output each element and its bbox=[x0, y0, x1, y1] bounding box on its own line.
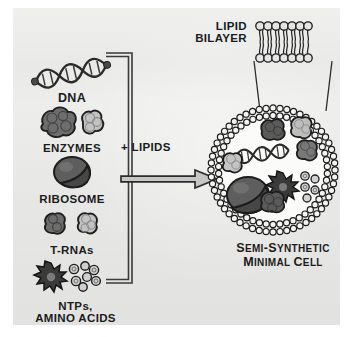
label-lipid-bilayer: LIPID BILAYER bbox=[185, 20, 247, 45]
label-ntps-line2: AMINO ACIDS bbox=[35, 312, 116, 324]
caption-line1: SEMI-SYNTHETIC bbox=[236, 241, 330, 255]
phospholipid-bilayer-inset bbox=[254, 20, 316, 64]
figure-panel: DNA ENZYMES RIBOSOME bbox=[13, 8, 340, 325]
label-ntps-amino-acids: NTPs, AMINO ACIDS bbox=[13, 300, 138, 325]
label-lipid-bilayer-line2: BILAYER bbox=[195, 32, 247, 44]
protein-blob-pair-icon bbox=[39, 107, 107, 139]
caption-semi-synthetic-minimal-cell: SEMI-SYNTHETIC MINIMAL CELL bbox=[218, 242, 340, 269]
ribosome-subunits-icon bbox=[51, 156, 97, 192]
ntp-star-cluster-icon bbox=[31, 260, 107, 294]
label-ntps-line1: NTPs, bbox=[58, 300, 92, 312]
trna-blob-pair-icon bbox=[41, 210, 105, 240]
dna-double-helix-icon bbox=[29, 56, 115, 90]
semi-synthetic-minimal-cell bbox=[206, 103, 340, 237]
label-plus-lipids: + LIPIDS bbox=[121, 141, 207, 153]
right-arrow-icon bbox=[121, 168, 219, 190]
caption-line2: MINIMAL CELL bbox=[243, 255, 323, 269]
label-lipid-bilayer-line1: LIPID bbox=[216, 20, 247, 32]
